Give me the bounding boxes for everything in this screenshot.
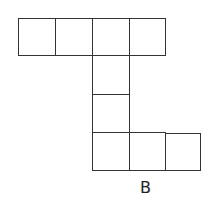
net-cell-r3-c2 (92, 132, 130, 171)
net-cell-r0-c0 (18, 18, 56, 56)
net-cell-r2-c2 (92, 94, 130, 134)
diagram-label: B (140, 180, 151, 196)
net-cell-r1-c2 (92, 55, 130, 95)
net-cell-r3-c3 (129, 132, 166, 171)
net-cell-r0-c1 (55, 18, 93, 56)
net-cell-r0-c3 (129, 18, 166, 56)
net-cell-r3-c4 (165, 133, 201, 171)
net-cell-r0-c2 (92, 18, 130, 56)
